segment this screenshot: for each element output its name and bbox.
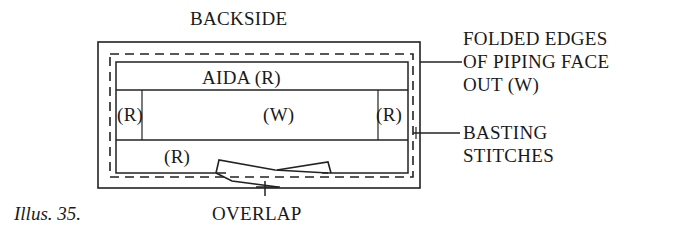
bottom-left-r-label: (R): [164, 146, 190, 167]
aida-label: AIDA (R): [202, 67, 281, 88]
outer-fabric-border: [98, 42, 420, 188]
right-r-label: (R): [376, 104, 402, 125]
folded-edges-line-3: OUT (W): [463, 74, 539, 95]
overlap-flap-left: [216, 160, 328, 173]
illustration-caption: Illus. 35.: [14, 203, 81, 225]
basting-line-1: BASTING: [463, 122, 547, 143]
center-w-label: (W): [263, 104, 295, 125]
overlap-label: OVERLAP: [212, 203, 302, 224]
folded-edges-line-2: OF PIPING FACE: [463, 51, 609, 72]
folded-edges-line-1: FOLDED EDGES: [463, 28, 608, 49]
left-r-label: (R): [117, 104, 143, 125]
basting-line-2: STITCHES: [463, 145, 554, 166]
backside-title: BACKSIDE: [190, 8, 287, 29]
overlap-underside: [216, 173, 278, 187]
